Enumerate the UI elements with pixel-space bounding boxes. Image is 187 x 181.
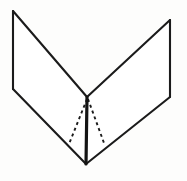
folded-panel-diagram	[0, 0, 187, 181]
center-fold-line	[86, 97, 87, 164]
figure-container	[0, 0, 187, 181]
